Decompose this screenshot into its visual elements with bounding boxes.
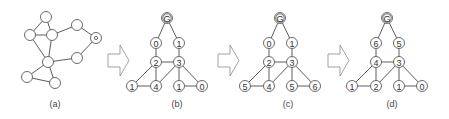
tree-node-b1: 2 bbox=[371, 81, 382, 92]
panel-caption-c: (c) bbox=[283, 99, 294, 109]
tree-panels: G01231410G01235456G65431210 bbox=[127, 13, 428, 92]
tree-node-label: 0 bbox=[153, 39, 158, 49]
tree-node-b3: 0 bbox=[197, 81, 208, 92]
tree-node-label: 1 bbox=[289, 39, 294, 49]
tree-node-b2: 1 bbox=[394, 81, 405, 92]
transition-arrow-icon bbox=[218, 45, 239, 76]
transition-arrow-icon bbox=[108, 45, 129, 76]
tree-node-label: 1 bbox=[396, 82, 401, 92]
tree-node-label: 0 bbox=[199, 82, 204, 92]
tree-node-label: 3 bbox=[176, 58, 181, 68]
tree-panel-b: G01231410 bbox=[127, 13, 208, 92]
tree-node-b0: 1 bbox=[127, 81, 138, 92]
panel-caption-d: (d) bbox=[387, 99, 398, 109]
tree-node-label: 4 bbox=[373, 58, 378, 68]
tree-node-label: 1 bbox=[349, 82, 354, 92]
tree-node-label: G bbox=[163, 14, 170, 24]
graph-node-lower-right bbox=[72, 53, 83, 64]
tree-node-l2a: 2 bbox=[264, 57, 275, 68]
tree-node-l2a: 4 bbox=[371, 57, 382, 68]
panel-caption-a: (a) bbox=[50, 99, 61, 109]
graph-node-bottom-right bbox=[50, 78, 61, 89]
tree-panel-d: G65431210 bbox=[347, 13, 428, 92]
tree-node-label: 4 bbox=[266, 82, 271, 92]
tree-node-label: 1 bbox=[176, 39, 181, 49]
graph-node-bottom-left bbox=[22, 72, 33, 83]
tree-node-l2b: 3 bbox=[394, 57, 405, 68]
graph-node-right-mid bbox=[47, 30, 58, 41]
graph-node-top bbox=[41, 12, 52, 23]
figure-canvas: G01231410G01235456G65431210 (a)(b)(c)(d) bbox=[0, 0, 449, 119]
tree-node-l1a: 0 bbox=[151, 38, 162, 49]
transition-arrows bbox=[108, 45, 349, 76]
tree-node-root: G bbox=[275, 13, 286, 24]
tree-node-b2: 5 bbox=[287, 81, 298, 92]
tree-node-b0: 1 bbox=[347, 81, 358, 92]
tree-node-root: G bbox=[162, 13, 173, 24]
tree-node-label: 2 bbox=[266, 58, 271, 68]
graph-node-upper-right bbox=[72, 20, 83, 31]
tree-node-label: 4 bbox=[153, 82, 158, 92]
tree-node-label: 1 bbox=[176, 82, 181, 92]
tree-node-b3: 6 bbox=[310, 81, 321, 92]
tree-node-b0: 5 bbox=[240, 81, 251, 92]
tree-node-root: G bbox=[382, 13, 393, 24]
tree-node-label: 3 bbox=[289, 58, 294, 68]
tree-node-l1b: 5 bbox=[394, 38, 405, 49]
tree-node-label: 3 bbox=[396, 58, 401, 68]
tree-node-l2b: 3 bbox=[174, 57, 185, 68]
tree-node-label: 0 bbox=[266, 39, 271, 49]
tree-node-label: 6 bbox=[373, 39, 378, 49]
tree-node-label: 5 bbox=[396, 39, 401, 49]
tree-node-label: 0 bbox=[419, 82, 424, 92]
panel-captions: (a)(b)(c)(d) bbox=[50, 99, 398, 109]
tree-node-label: 1 bbox=[129, 82, 134, 92]
tree-node-l1b: 1 bbox=[174, 38, 185, 49]
tree-panel-c: G01235456 bbox=[240, 13, 321, 92]
tree-node-b1: 4 bbox=[264, 81, 275, 92]
tree-node-label: 5 bbox=[242, 82, 247, 92]
tree-node-label: 2 bbox=[153, 58, 158, 68]
tree-node-b1: 4 bbox=[151, 81, 162, 92]
tree-node-b3: 0 bbox=[417, 81, 428, 92]
tree-node-b2: 1 bbox=[174, 81, 185, 92]
graph-node-left-mid bbox=[25, 30, 36, 41]
tree-node-label: G bbox=[383, 14, 390, 24]
graph-node-center bbox=[43, 57, 54, 68]
graph-panel-a bbox=[22, 12, 102, 89]
tree-node-l1b: 1 bbox=[287, 38, 298, 49]
tree-node-l2a: 2 bbox=[151, 57, 162, 68]
tree-node-l1a: 0 bbox=[264, 38, 275, 49]
tree-node-label: G bbox=[276, 14, 283, 24]
panel-caption-b: (b) bbox=[172, 99, 183, 109]
transition-arrow-icon bbox=[328, 45, 349, 76]
tree-node-label: 6 bbox=[312, 82, 317, 92]
marked-node-dot-icon bbox=[94, 36, 97, 39]
tree-node-l2b: 3 bbox=[287, 57, 298, 68]
graph-node-marked bbox=[91, 33, 102, 44]
tree-node-label: 5 bbox=[289, 82, 294, 92]
tree-node-label: 2 bbox=[373, 82, 378, 92]
tree-node-l1a: 6 bbox=[371, 38, 382, 49]
